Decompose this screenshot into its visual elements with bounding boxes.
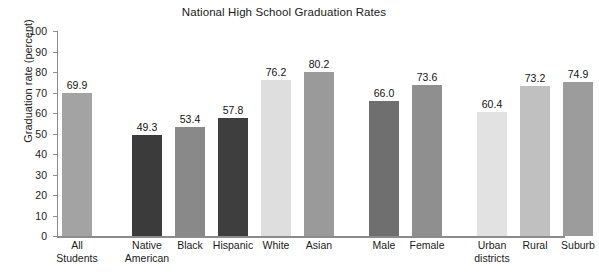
bar[interactable] [261, 80, 291, 236]
y-tick-label-60: 60 [35, 107, 47, 119]
bar-group[interactable]: 80.2 [304, 31, 334, 236]
bar-group[interactable]: 60.4 [477, 31, 507, 236]
y-axis-line [57, 31, 58, 237]
bar[interactable] [218, 118, 248, 236]
bar-value-label: 66.0 [374, 87, 394, 99]
y-tick-100: 100 [53, 31, 57, 32]
y-tick-label-50: 50 [35, 128, 47, 140]
plot-area: 1009080706050403020100 69.949.353.457.87… [57, 31, 565, 237]
category-label-line: districts [452, 252, 532, 265]
bar-group[interactable]: 74.9 [563, 31, 593, 236]
y-tick-label-90: 90 [35, 46, 47, 58]
y-tick-label-30: 30 [35, 169, 47, 181]
bar-value-label: 80.2 [309, 58, 329, 70]
bar-group[interactable]: 73.6 [412, 31, 442, 236]
bar-group[interactable]: 49.3 [132, 31, 162, 236]
y-tick-90: 90 [53, 52, 57, 53]
category-label-line: Suburb [538, 239, 599, 252]
y-tick-60: 60 [53, 113, 57, 114]
y-tick-20: 20 [53, 195, 57, 196]
bar-value-label: 60.4 [482, 98, 502, 110]
bar[interactable] [412, 85, 442, 236]
y-tick-label-10: 10 [35, 210, 47, 222]
y-tick-label-70: 70 [35, 87, 47, 99]
y-tick-70: 70 [53, 93, 57, 94]
bar[interactable] [62, 93, 92, 236]
category-label-line: Students [37, 252, 117, 265]
y-tick-40: 40 [53, 154, 57, 155]
bar[interactable] [132, 135, 162, 236]
bar-group[interactable]: 73.2 [520, 31, 550, 236]
y-tick-80: 80 [53, 72, 57, 73]
bar-group[interactable]: 57.8 [218, 31, 248, 236]
bar-group[interactable]: 53.4 [175, 31, 205, 236]
bar-group[interactable]: 76.2 [261, 31, 291, 236]
y-tick-50: 50 [53, 134, 57, 135]
bar-value-label: 69.9 [67, 79, 87, 91]
bar[interactable] [477, 112, 507, 236]
bar-group[interactable]: 66.0 [369, 31, 399, 236]
bar-value-label: 73.6 [417, 71, 437, 83]
bar[interactable] [175, 127, 205, 236]
bar[interactable] [563, 82, 593, 236]
bar-value-label: 73.2 [525, 72, 545, 84]
bar-value-label: 57.8 [223, 104, 243, 116]
category-label: AllStudents [37, 239, 117, 264]
bar-value-label: 49.3 [137, 121, 157, 133]
bar[interactable] [304, 72, 334, 236]
chart-title: National High School Graduation Rates [0, 6, 568, 18]
category-label: Suburb [538, 239, 599, 252]
y-tick-label-100: 100 [29, 25, 47, 37]
y-tick-label-20: 20 [35, 189, 47, 201]
bar[interactable] [520, 86, 550, 236]
bar-value-label: 74.9 [568, 68, 588, 80]
y-tick-10: 10 [53, 216, 57, 217]
bar-group[interactable]: 69.9 [62, 31, 92, 236]
category-label-line: All [37, 239, 117, 252]
y-tick-label-80: 80 [35, 66, 47, 78]
x-axis-line [57, 236, 565, 238]
y-tick-30: 30 [53, 175, 57, 176]
category-label-line: American [107, 252, 187, 265]
y-tick-0: 0 [53, 236, 57, 237]
y-tick-label-40: 40 [35, 148, 47, 160]
bar-value-label: 76.2 [266, 66, 286, 78]
bar[interactable] [369, 101, 399, 236]
bar-value-label: 53.4 [180, 113, 200, 125]
